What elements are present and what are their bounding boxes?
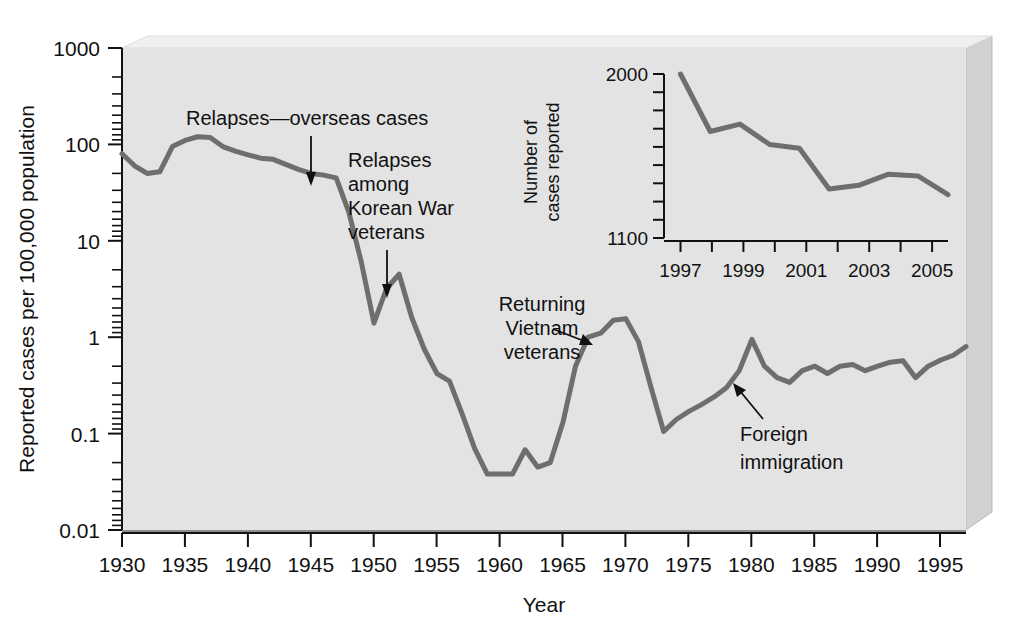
inset-y-axis-title-line-1: Number of <box>521 119 541 204</box>
annotation-korean-war-line-3: Korean War <box>348 197 454 219</box>
inset-y-tick-label-1100: 1100 <box>607 228 648 249</box>
tuberculosis-incidence-chart: 1000 100 10 1 0.1 0.01 Reported cases pe… <box>0 0 1019 624</box>
x-tick-label-1945: 1945 <box>287 553 334 576</box>
x-tick-label-1985: 1985 <box>791 553 838 576</box>
main-x-axis: 1930 1935 1940 1945 1950 1955 1960 1965 … <box>99 533 966 576</box>
annotation-korean-war-line-4: veterans <box>348 221 425 243</box>
x-tick-label-1995: 1995 <box>917 553 964 576</box>
x-tick-label-1970: 1970 <box>602 553 649 576</box>
figure-container: 1000 100 10 1 0.1 0.01 Reported cases pe… <box>0 0 1019 624</box>
y-tick-label-0.01: 0.01 <box>59 519 100 542</box>
inset-x-tick-label-1997: 1997 <box>659 260 701 281</box>
inset-x-tick-label-2005: 2005 <box>911 260 953 281</box>
annotation-relapses-overseas-label: Relapses—overseas cases <box>186 107 428 129</box>
block-top-face <box>122 36 992 48</box>
y-tick-label-0.1: 0.1 <box>71 423 100 446</box>
inset-x-tick-label-1999: 1999 <box>722 260 764 281</box>
annotation-foreign-immigration-line-1: Foreign <box>740 423 808 445</box>
annotation-korean-war-line-1: Relapses <box>348 149 431 171</box>
x-tick-label-1940: 1940 <box>225 553 272 576</box>
annotation-vietnam-line-2: Vietnam <box>505 317 578 339</box>
annotation-foreign-immigration-line-2: immigration <box>740 451 843 473</box>
y-major-ticks <box>108 48 122 530</box>
y-tick-label-100: 100 <box>65 133 100 156</box>
y-axis-title: Reported cases per 100,000 population <box>15 105 38 473</box>
inset-y-tick-label-2000: 2000 <box>606 64 648 85</box>
x-tick-label-1990: 1990 <box>854 553 901 576</box>
annotation-korean-war-line-2: among <box>348 173 409 195</box>
y-tick-label-1: 1 <box>88 326 100 349</box>
y-tick-label-1000: 1000 <box>53 37 100 60</box>
main-y-axis: 1000 100 10 1 0.1 0.01 <box>53 37 122 542</box>
block-right-face <box>966 36 992 530</box>
y-tick-label-10: 10 <box>77 230 100 253</box>
x-axis-title: Year <box>523 593 565 616</box>
x-major-ticks <box>122 533 940 547</box>
annotation-vietnam-line-3: veterans <box>504 341 581 363</box>
x-tick-label-1955: 1955 <box>413 553 460 576</box>
x-tick-label-1980: 1980 <box>728 553 775 576</box>
inset-x-tick-label-2001: 2001 <box>785 260 827 281</box>
x-tick-label-1935: 1935 <box>162 553 209 576</box>
x-tick-label-1960: 1960 <box>476 553 523 576</box>
x-tick-label-1965: 1965 <box>539 553 586 576</box>
x-tick-label-1950: 1950 <box>350 553 397 576</box>
inset-y-axis-title-line-2: cases reported <box>543 102 563 221</box>
x-tick-label-1975: 1975 <box>665 553 712 576</box>
annotation-vietnam-line-1: Returning <box>499 293 586 315</box>
inset-x-tick-label-2003: 2003 <box>848 260 890 281</box>
x-tick-label-1930: 1930 <box>99 553 146 576</box>
